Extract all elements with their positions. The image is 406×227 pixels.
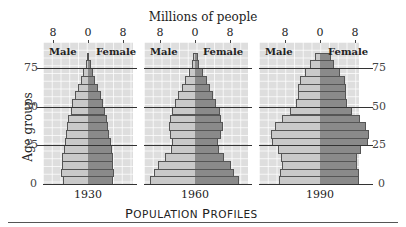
female-bar (88, 169, 114, 178)
x-tick (285, 40, 286, 43)
female-bar (88, 145, 112, 154)
age-gridline-0 (43, 184, 137, 185)
x-tick-label: 0 (310, 26, 330, 39)
male-bar (68, 115, 88, 124)
panel-year-1960: 1960 (175, 188, 215, 201)
left-age-tick-75: 75 (24, 61, 44, 74)
panel-year-1990: 1990 (300, 188, 340, 201)
x-tick-label: 8 (220, 26, 240, 39)
female-bar (320, 115, 360, 124)
male-bar (64, 145, 88, 154)
male-bar (75, 91, 88, 100)
female-bar (195, 122, 223, 131)
x-tick (195, 40, 196, 43)
female-bar (195, 76, 207, 85)
caption-word-1: OPULATION (133, 208, 202, 220)
female-bar (195, 68, 203, 77)
male-bar (290, 107, 320, 116)
caption-word-2: ROFILES (210, 208, 257, 220)
male-bar (78, 84, 88, 93)
male-label: Male (49, 46, 77, 57)
x-tick-label: 8 (150, 26, 170, 39)
female-bar (195, 130, 221, 139)
female-bar (320, 91, 346, 100)
male-bar (172, 107, 195, 116)
female-bar (88, 115, 107, 124)
right-age-tick-50: 50 (372, 100, 392, 113)
male-bar (165, 153, 195, 162)
female-bar (320, 145, 361, 154)
female-bar (320, 76, 345, 85)
male-bar (62, 161, 88, 170)
x-tick-label: 0 (78, 26, 98, 39)
female-bar (320, 130, 369, 139)
x-tick-label: 8 (43, 26, 63, 39)
male-bar (169, 122, 195, 131)
female-bar (88, 53, 89, 62)
female-bar (88, 91, 101, 100)
male-bar (71, 107, 89, 116)
female-bar (320, 153, 357, 162)
male-bar (170, 115, 195, 124)
female-bar (195, 145, 219, 154)
female-bar (195, 115, 221, 124)
left-age-tick-25: 25 (24, 138, 44, 151)
male-bar (275, 122, 320, 131)
male-bar (171, 145, 195, 154)
female-bar (88, 107, 105, 116)
male-bar (81, 76, 88, 85)
x-tick (320, 40, 321, 43)
female-bar (195, 161, 231, 170)
x-tick-label: 8 (345, 26, 365, 39)
female-bar (88, 153, 113, 162)
female-bar (88, 122, 108, 131)
male-bar (158, 161, 195, 170)
x-tick (160, 40, 161, 43)
male-bar (280, 169, 320, 178)
female-bar (320, 68, 340, 77)
female-label: Female (96, 46, 136, 57)
male-bar (67, 122, 88, 131)
female-bar (88, 76, 95, 85)
x-tick (88, 40, 89, 43)
left-age-tick-0: 0 (30, 177, 50, 190)
x-axis-title: Millions of people (0, 10, 406, 24)
male-bar (281, 153, 320, 162)
x-tick (230, 40, 231, 43)
age-gridline-75 (259, 68, 373, 69)
right-age-tick-75: 75 (372, 61, 392, 74)
caption-rule (8, 222, 398, 223)
male-bar (300, 76, 320, 85)
female-label: Female (328, 46, 368, 57)
female-bar (320, 84, 346, 93)
male-bar (185, 76, 195, 85)
male-bar (170, 130, 195, 139)
female-bar (195, 107, 220, 116)
male-label: Male (265, 46, 293, 57)
female-bar (88, 68, 93, 77)
male-bar (298, 91, 320, 100)
x-tick (53, 40, 54, 43)
panel-year-1930: 1930 (68, 188, 108, 201)
female-bar (195, 153, 224, 162)
male-bar (271, 130, 320, 139)
age-gridline-75 (37, 68, 137, 69)
female-bar (195, 169, 234, 178)
male-bar (282, 115, 321, 124)
female-bar (320, 161, 357, 170)
female-bar (195, 53, 198, 62)
right-age-tick-25: 25 (372, 138, 392, 151)
male-bar (298, 84, 320, 93)
left-age-tick-50: 50 (24, 100, 44, 113)
age-gridline-50 (37, 107, 137, 108)
male-bar (61, 169, 88, 178)
female-bar (320, 122, 366, 131)
x-tick-label: 8 (113, 26, 133, 39)
age-gridline-25 (259, 145, 373, 146)
female-bar (88, 130, 109, 139)
female-bar (195, 84, 210, 93)
male-label: Male (150, 46, 178, 57)
age-gridline-50 (144, 107, 252, 108)
x-tick (355, 40, 356, 43)
x-tick (123, 40, 124, 43)
